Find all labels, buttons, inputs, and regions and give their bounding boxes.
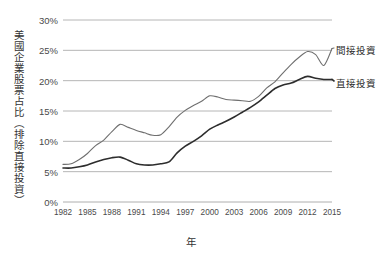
x-axis-tick-label: 2009 [274,208,292,217]
x-axis-tick-label: 1994 [152,208,170,217]
x-axis-tick-label: 1997 [176,208,194,217]
x-axis-tick-label: 1991 [127,208,145,217]
x-axis-title: 年 [0,234,382,249]
x-axis-tick-label: 1985 [78,208,96,217]
legend-label-direct-investment: 直接投資 [336,76,376,90]
x-axis-tick-label: 1982 [54,208,72,217]
x-axis-tick-label: 2015 [323,208,341,217]
x-axis-tick-label: 2012 [298,208,316,217]
x-axis-tick-label: 1988 [103,208,121,217]
x-axis-tick-label: 2006 [250,208,268,217]
x-axis-tick-label: 2003 [225,208,243,217]
x-axis-tick-labels: 1982198519881991199419972000200320062009… [0,0,382,254]
x-axis-tick-label: 2000 [201,208,219,217]
legend-label-indirect-investment: 間接投資 [336,43,376,57]
chart-figure: 美國企業股票占比（排除直接投資） 0%5%10%15%20%25%30% 198… [0,0,382,254]
